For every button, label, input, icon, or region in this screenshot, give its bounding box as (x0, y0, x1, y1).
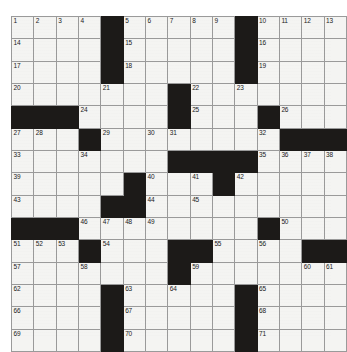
crossword-cell[interactable] (279, 61, 301, 83)
crossword-cell[interactable] (190, 307, 212, 329)
crossword-cell[interactable]: 55 (212, 240, 234, 262)
crossword-cell[interactable] (56, 61, 78, 83)
crossword-cell[interactable] (34, 307, 56, 329)
crossword-cell[interactable] (302, 284, 324, 306)
crossword-cell[interactable] (324, 329, 346, 351)
crossword-cell[interactable]: 65 (257, 284, 279, 306)
crossword-cell[interactable] (101, 262, 123, 284)
crossword-cell[interactable] (123, 128, 145, 150)
crossword-cell[interactable]: 10 (257, 17, 279, 39)
crossword-cell[interactable] (145, 307, 167, 329)
crossword-cell[interactable]: 45 (190, 195, 212, 217)
crossword-cell[interactable] (302, 173, 324, 195)
crossword-cell[interactable]: 71 (257, 329, 279, 351)
crossword-cell[interactable]: 32 (257, 128, 279, 150)
crossword-cell[interactable]: 47 (101, 217, 123, 239)
crossword-cell[interactable] (34, 150, 56, 172)
crossword-cell[interactable] (212, 217, 234, 239)
crossword-cell[interactable] (34, 61, 56, 83)
crossword-cell[interactable] (123, 150, 145, 172)
crossword-cell[interactable]: 42 (235, 173, 257, 195)
crossword-cell[interactable]: 46 (78, 217, 100, 239)
crossword-cell[interactable] (56, 173, 78, 195)
crossword-cell[interactable]: 14 (12, 39, 34, 61)
crossword-cell[interactable] (257, 173, 279, 195)
crossword-cell[interactable] (302, 217, 324, 239)
crossword-cell[interactable]: 19 (257, 61, 279, 83)
crossword-cell[interactable] (212, 61, 234, 83)
crossword-cell[interactable]: 1 (12, 17, 34, 39)
crossword-cell[interactable] (279, 173, 301, 195)
crossword-cell[interactable]: 26 (279, 106, 301, 128)
crossword-cell[interactable] (257, 262, 279, 284)
crossword-cell[interactable] (324, 284, 346, 306)
crossword-cell[interactable]: 28 (34, 128, 56, 150)
crossword-cell[interactable] (56, 284, 78, 306)
crossword-cell[interactable] (56, 83, 78, 105)
crossword-cell[interactable] (145, 240, 167, 262)
crossword-cell[interactable] (56, 150, 78, 172)
crossword-cell[interactable]: 29 (101, 128, 123, 150)
crossword-cell[interactable] (78, 39, 100, 61)
crossword-cell[interactable] (168, 329, 190, 351)
crossword-cell[interactable]: 17 (12, 61, 34, 83)
crossword-cell[interactable] (302, 307, 324, 329)
crossword-cell[interactable] (123, 262, 145, 284)
crossword-cell[interactable]: 54 (101, 240, 123, 262)
crossword-cell[interactable] (78, 307, 100, 329)
crossword-cell[interactable] (145, 329, 167, 351)
crossword-cell[interactable] (212, 195, 234, 217)
crossword-cell[interactable] (279, 240, 301, 262)
crossword-cell[interactable]: 66 (12, 307, 34, 329)
crossword-cell[interactable]: 5 (123, 17, 145, 39)
crossword-cell[interactable] (101, 150, 123, 172)
crossword-cell[interactable] (279, 195, 301, 217)
crossword-grid[interactable]: 1234567891011121314151617181920212223242… (11, 16, 347, 352)
crossword-cell[interactable]: 50 (279, 217, 301, 239)
crossword-cell[interactable] (212, 39, 234, 61)
crossword-cell[interactable] (279, 262, 301, 284)
crossword-cell[interactable] (168, 173, 190, 195)
crossword-puzzle[interactable]: 1234567891011121314151617181920212223242… (11, 16, 331, 336)
crossword-cell[interactable] (145, 39, 167, 61)
crossword-cell[interactable] (56, 195, 78, 217)
crossword-cell[interactable] (56, 262, 78, 284)
crossword-cell[interactable] (34, 262, 56, 284)
crossword-cell[interactable] (56, 128, 78, 150)
crossword-cell[interactable] (190, 39, 212, 61)
crossword-cell[interactable] (212, 329, 234, 351)
crossword-cell[interactable] (145, 284, 167, 306)
crossword-cell[interactable] (212, 262, 234, 284)
crossword-cell[interactable] (145, 61, 167, 83)
crossword-cell[interactable]: 69 (12, 329, 34, 351)
crossword-cell[interactable]: 20 (12, 83, 34, 105)
crossword-cell[interactable]: 11 (279, 17, 301, 39)
crossword-cell[interactable] (212, 284, 234, 306)
crossword-cell[interactable] (212, 307, 234, 329)
crossword-cell[interactable]: 7 (168, 17, 190, 39)
crossword-cell[interactable]: 2 (34, 17, 56, 39)
crossword-cell[interactable]: 40 (145, 173, 167, 195)
crossword-cell[interactable] (279, 329, 301, 351)
crossword-cell[interactable]: 24 (78, 106, 100, 128)
crossword-cell[interactable]: 64 (168, 284, 190, 306)
crossword-cell[interactable] (168, 307, 190, 329)
crossword-cell[interactable]: 18 (123, 61, 145, 83)
crossword-cell[interactable] (78, 284, 100, 306)
crossword-cell[interactable] (78, 173, 100, 195)
crossword-cell[interactable] (123, 106, 145, 128)
crossword-cell[interactable] (212, 128, 234, 150)
crossword-cell[interactable] (324, 307, 346, 329)
crossword-cell[interactable]: 15 (123, 39, 145, 61)
crossword-cell[interactable] (34, 83, 56, 105)
crossword-cell[interactable] (34, 173, 56, 195)
crossword-cell[interactable] (190, 329, 212, 351)
crossword-cell[interactable]: 53 (56, 240, 78, 262)
crossword-cell[interactable]: 44 (145, 195, 167, 217)
crossword-cell[interactable]: 59 (190, 262, 212, 284)
crossword-cell[interactable]: 49 (145, 217, 167, 239)
crossword-cell[interactable] (302, 83, 324, 105)
crossword-cell[interactable] (279, 284, 301, 306)
crossword-cell[interactable] (302, 106, 324, 128)
crossword-cell[interactable] (123, 83, 145, 105)
